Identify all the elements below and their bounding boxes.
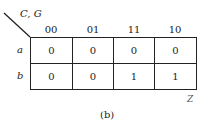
cell-a-11: 0 <box>114 38 155 64</box>
cell-a-00: 0 <box>31 38 73 64</box>
column-header-11: 11 <box>113 24 155 35</box>
cell-b-11: 1 <box>114 64 155 90</box>
cell-b-00: 0 <box>31 64 73 90</box>
cell-b-10: 1 <box>155 64 196 90</box>
row-header-b: b <box>17 70 23 81</box>
column-variables-label: C, G <box>20 8 42 19</box>
cell-a-10: 0 <box>155 38 196 64</box>
column-header-10: 10 <box>154 24 196 35</box>
karnaugh-map-grid: 0 0 0 0 0 0 1 1 <box>30 37 197 90</box>
output-variable-label: Z <box>187 94 193 104</box>
row-header-a: a <box>17 44 23 55</box>
cell-b-01: 0 <box>73 64 114 90</box>
column-header-00: 00 <box>30 24 72 35</box>
cell-a-01: 0 <box>73 38 114 64</box>
column-header-01: 01 <box>72 24 114 35</box>
figure-caption: (b) <box>100 109 114 120</box>
